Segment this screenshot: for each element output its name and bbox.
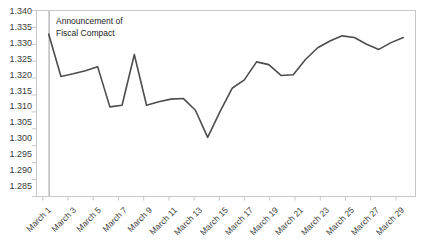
announcement-line-1: Announcement of — [56, 16, 123, 28]
data-series-line — [49, 34, 404, 137]
announcement-annotation: Announcement of Fiscal Compact — [56, 16, 123, 39]
x-tick-marks — [43, 197, 396, 201]
line-chart: 1.340 1.335 1.330 1.325 1.320 1.315 1.31… — [0, 0, 429, 251]
y-tick-marks — [32, 11, 37, 197]
announcement-line-2: Fiscal Compact — [56, 28, 123, 40]
